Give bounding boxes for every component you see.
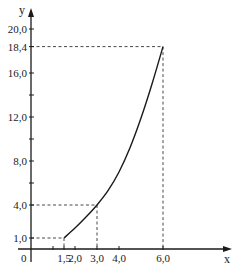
y-axis-arrow-icon <box>28 8 34 17</box>
y-axis-label: y <box>19 3 25 17</box>
y-tick-label: 20,0 <box>8 23 28 35</box>
dashed-guides <box>31 47 163 249</box>
chart: 1,52,03,04,06,0 1,04,08,012,016,018,420,… <box>0 0 244 267</box>
y-ticks: 1,04,08,012,016,018,420,0 <box>8 23 34 244</box>
y-tick-label: 4,0 <box>13 199 27 211</box>
y-tick-label: 18,4 <box>8 41 28 53</box>
x-tick-label: 2,0 <box>68 252 82 264</box>
x-axis-label: x <box>224 252 230 266</box>
x-tick-label: 6,0 <box>156 252 170 264</box>
data-curve <box>64 47 163 238</box>
x-tick-label: 4,0 <box>112 252 126 264</box>
y-tick-label: 1,0 <box>13 232 27 244</box>
axes <box>18 8 232 262</box>
x-tick-label: 3,0 <box>90 252 104 264</box>
y-tick-label: 8,0 <box>13 155 27 167</box>
y-tick-label: 12,0 <box>8 111 28 123</box>
origin-label: 0 <box>21 252 27 264</box>
y-tick-label: 16,0 <box>8 67 28 79</box>
